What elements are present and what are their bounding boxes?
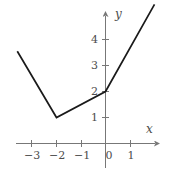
y-tick-label-4: 4 bbox=[86, 34, 98, 45]
graph-figure: −3 −2 −1 0 1 1 2 3 4 y x bbox=[0, 0, 173, 175]
x-tick-label-neg1: −1 bbox=[74, 150, 90, 161]
x-tick-label-neg3: −3 bbox=[24, 150, 40, 161]
y-tick-label-3: 3 bbox=[86, 60, 98, 71]
y-tick-label-1: 1 bbox=[86, 112, 98, 123]
x-tick-label-1: 1 bbox=[125, 150, 137, 161]
x-tick-label-neg2: −2 bbox=[49, 150, 65, 161]
y-tick-label-2: 2 bbox=[86, 86, 98, 97]
x-axis-label: x bbox=[146, 123, 153, 135]
y-axis-label: y bbox=[115, 8, 122, 20]
x-tick-label-0: 0 bbox=[103, 150, 115, 161]
